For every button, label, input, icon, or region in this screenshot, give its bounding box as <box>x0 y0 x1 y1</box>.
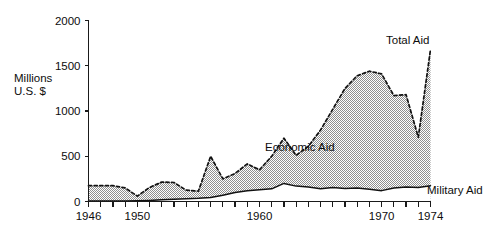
y-tick-label: 1500 <box>55 60 81 72</box>
y-axis-title-line1: Millions <box>14 72 53 84</box>
x-tick-label: 1950 <box>125 210 151 222</box>
series-areas <box>89 49 431 201</box>
x-tick-label: 1970 <box>369 210 395 222</box>
x-tick-label: 1946 <box>76 210 102 222</box>
foreign-aid-area-chart: 0500100015002000 19461950196019701974 Mi… <box>0 0 490 232</box>
x-tick-label: 1974 <box>418 210 444 222</box>
x-axis-tick-labels: 19461950196019701974 <box>76 210 444 222</box>
y-axis-tick-labels: 0500100015002000 <box>55 15 81 208</box>
x-tick-label: 1960 <box>247 210 273 222</box>
chart-canvas: 0500100015002000 19461950196019701974 Mi… <box>0 0 490 232</box>
y-tick-label: 2000 <box>55 15 81 27</box>
y-tick-label: 0 <box>74 196 80 208</box>
total-aid-label: Total Aid <box>386 34 429 46</box>
economic-aid-area <box>89 49 431 201</box>
economic-aid-label: Economic Aid <box>265 141 335 153</box>
y-axis-title-line2: U.S. $ <box>14 85 47 97</box>
y-tick-label: 1000 <box>55 105 81 117</box>
y-tick-label: 500 <box>61 150 80 162</box>
military-aid-label: Military Aid <box>427 184 483 196</box>
axis-titles: Millions U.S. $ <box>14 72 53 97</box>
